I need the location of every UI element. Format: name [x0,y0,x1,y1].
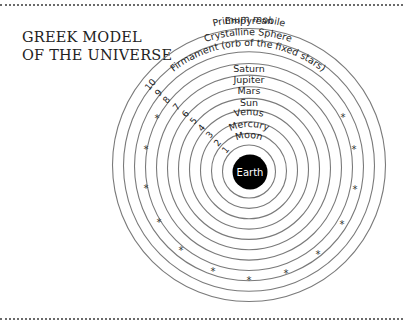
star-icon: * [179,245,184,256]
star-icon: * [155,113,160,124]
label-saturn: Saturn [233,63,264,74]
label-moon: Moon [234,129,264,142]
label-sun: Sun [240,97,258,108]
star-icon: * [144,144,149,155]
star-icon: * [247,275,252,286]
star-icon: * [316,249,321,260]
number-8: 8 [161,94,173,105]
label-mars: Mars [238,85,261,96]
label-empyrean: Empyrean [225,15,273,26]
star-icon: * [157,217,162,228]
star-icon: * [341,112,346,123]
star-icon: * [353,184,358,195]
star-icon: * [211,266,216,277]
star-icon: * [144,183,149,194]
earth-label: Earth [237,167,264,178]
star-icon: * [352,144,357,155]
label-jupiter: Jupiter [233,74,265,85]
star-icon: * [284,268,289,279]
star-icon: * [340,219,345,230]
universe-diagram: Earth Moon Mercury Venus Sun Mars Jupite… [0,0,403,331]
